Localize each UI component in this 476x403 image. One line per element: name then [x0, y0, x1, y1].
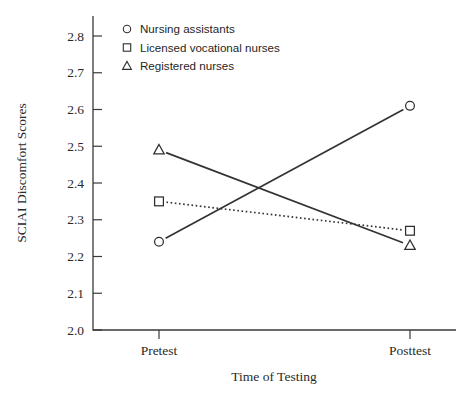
y-tick-label: 2.3 [67, 212, 84, 227]
y-tick-label: 2.8 [67, 29, 84, 44]
x-axis-tick-labels: PretestPosttest [141, 343, 432, 358]
legend-label-circle: Nursing assistants [140, 22, 235, 35]
data-point-circle-posttest [406, 101, 415, 110]
x-tick-label: Posttest [389, 343, 431, 358]
legend: Nursing assistantsLicensed vocational nu… [123, 22, 280, 72]
y-tick-label: 2.6 [67, 102, 84, 117]
y-axis-ticks [93, 36, 102, 330]
y-tick-label: 2.7 [67, 65, 84, 80]
series-lines-group [166, 109, 404, 242]
square-marker-icon [123, 44, 130, 51]
series-line-registered-nurses [166, 153, 403, 243]
y-tick-label: 2.0 [67, 323, 84, 338]
triangle-marker-icon [123, 61, 132, 69]
legend-label-triangle: Registered nurses [140, 59, 234, 72]
legend-label-square: Licensed vocational nurses [140, 41, 280, 54]
data-point-square-posttest [406, 226, 415, 235]
data-point-triangle-pretest [154, 144, 164, 153]
y-tick-label: 2.4 [67, 176, 84, 191]
x-tick-label: Pretest [141, 343, 178, 358]
y-axis-title: SCIAI Discomfort Scores [14, 103, 29, 242]
data-point-circle-pretest [155, 237, 164, 246]
series-line-nursing-assistants [166, 109, 404, 238]
chart-canvas: 2.02.12.22.32.42.52.62.72.8 PretestPostt… [0, 0, 476, 403]
data-point-triangle-posttest [405, 240, 415, 249]
y-tick-label: 2.2 [67, 249, 84, 264]
line-chart-figure: 2.02.12.22.32.42.52.62.72.8 PretestPostt… [0, 0, 476, 403]
y-tick-label: 2.1 [67, 286, 84, 301]
x-axis-ticks [159, 330, 410, 339]
x-axis-title: Time of Testing [231, 369, 317, 384]
data-point-square-pretest [155, 197, 164, 206]
circle-marker-icon [123, 25, 130, 32]
series-line-licensed-vocational-nurses [166, 202, 402, 230]
y-axis-tick-labels: 2.02.12.22.32.42.52.62.72.8 [67, 29, 84, 338]
y-tick-label: 2.5 [67, 139, 84, 154]
